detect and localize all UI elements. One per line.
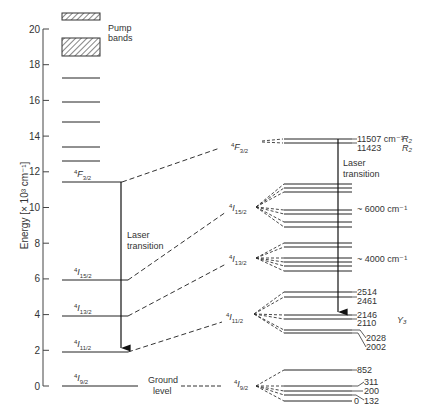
y-axis: 0 2 4 6 8 10 12 14 16 18 20 <box>29 24 49 392</box>
tick-20: 20 <box>29 24 41 35</box>
svg-text:2002: 2002 <box>366 342 386 352</box>
svg-text:132: 132 <box>364 396 379 406</box>
energy-level-diagram: 0 2 4 6 8 10 12 14 16 18 20 Pump bands <box>0 0 427 420</box>
svg-text:Y₃: Y₃ <box>397 315 407 325</box>
tick-16: 16 <box>29 95 41 106</box>
bands-label: bands <box>108 33 133 43</box>
left-upper-levels <box>62 78 100 161</box>
svg-text:transition: transition <box>343 169 380 179</box>
tick-2: 2 <box>34 345 40 356</box>
svg-text:4I9/2: 4I9/2 <box>74 373 89 385</box>
svg-text:Laser: Laser <box>127 230 150 240</box>
svg-text:2461: 2461 <box>357 296 377 306</box>
left-laser-transition: Laser transition <box>121 182 164 348</box>
tick-12: 12 <box>29 166 41 177</box>
ground-level-label: Ground level <box>148 375 222 396</box>
tick-18: 18 <box>29 59 41 70</box>
tick-0: 0 <box>34 381 40 392</box>
svg-text:R₂: R₂ <box>402 143 412 153</box>
svg-text:Laser: Laser <box>343 158 366 168</box>
pump-bands: Pump bands <box>62 13 133 56</box>
tick-6: 6 <box>34 273 40 284</box>
svg-text:4F3/2: 4F3/2 <box>231 142 249 154</box>
left-main-levels <box>62 182 138 386</box>
svg-text:~ 4000 cm⁻¹: ~ 4000 cm⁻¹ <box>357 254 407 264</box>
right-manifold-labels: 4F3/2 4I15/2 4I13/2 4I11/2 4I9/2 <box>226 142 249 391</box>
svg-text:~ 6000 cm⁻¹: ~ 6000 cm⁻¹ <box>357 204 407 214</box>
tick-10: 10 <box>29 202 41 213</box>
svg-text:4I13/2: 4I13/2 <box>74 303 92 315</box>
svg-text:11423: 11423 <box>357 143 381 153</box>
y-axis-label: Energy [× 10³ cm⁻¹] <box>19 136 30 276</box>
right-sublevels <box>284 139 352 401</box>
svg-text:level: level <box>153 386 172 396</box>
svg-text:4I13/2: 4I13/2 <box>229 254 247 266</box>
tick-8: 8 <box>34 238 40 249</box>
svg-text:0: 0 <box>354 396 359 406</box>
svg-text:Ground: Ground <box>148 375 178 385</box>
tick-14: 14 <box>29 131 41 142</box>
svg-text:200: 200 <box>364 386 379 396</box>
pump-label: Pump <box>108 23 132 33</box>
svg-text:4I15/2: 4I15/2 <box>229 203 247 215</box>
svg-text:4I11/2: 4I11/2 <box>74 339 92 351</box>
svg-text:4I15/2: 4I15/2 <box>74 267 92 279</box>
svg-text:4F3/2: 4F3/2 <box>74 169 92 181</box>
svg-text:2110: 2110 <box>357 318 376 328</box>
fan-lines <box>254 139 284 401</box>
svg-text:852: 852 <box>357 365 372 375</box>
left-level-labels: 4F3/2 4I15/2 4I13/2 4I11/2 4I9/2 <box>74 169 92 385</box>
svg-text:transition: transition <box>127 241 164 251</box>
svg-text:4I9/2: 4I9/2 <box>234 379 249 391</box>
svg-text:4I11/2: 4I11/2 <box>226 312 244 324</box>
tick-4: 4 <box>34 309 40 320</box>
